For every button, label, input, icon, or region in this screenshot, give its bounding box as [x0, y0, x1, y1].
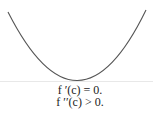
second-derivative-condition: f ′′(c) > 0.: [0, 96, 153, 108]
concave-up-curve: [8, 10, 146, 81]
